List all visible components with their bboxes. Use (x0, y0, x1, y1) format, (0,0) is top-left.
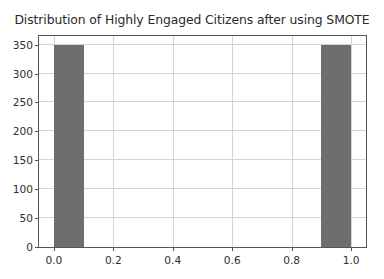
x-tick-label: 0.2 (105, 254, 122, 266)
chart-figure: Distribution of Highly Engaged Citizens … (0, 0, 384, 279)
y-tick-label: 200 (13, 125, 33, 137)
x-tick-label: 0.4 (164, 254, 181, 266)
gridline-horizontal (39, 159, 366, 160)
gridline-vertical (173, 36, 174, 247)
gridline-horizontal (39, 44, 366, 45)
chart-title: Distribution of Highly Engaged Citizens … (0, 12, 384, 27)
y-tick-mark (35, 247, 39, 248)
gridline-horizontal (39, 130, 366, 131)
x-tick-mark (54, 247, 55, 251)
y-tick-label: 0 (26, 241, 33, 253)
x-tick-label: 1.0 (343, 254, 360, 266)
y-tick-label: 150 (13, 154, 33, 166)
plot-area: 050100150200250300350 0.00.20.40.60.81.0 (38, 35, 367, 248)
y-tick-label: 100 (13, 183, 33, 195)
x-tick-label: 0.0 (45, 254, 62, 266)
y-tick-label: 250 (13, 96, 33, 108)
x-tick-mark (351, 247, 352, 251)
gridline-horizontal (39, 188, 366, 189)
y-tick-mark (35, 74, 39, 75)
y-tick-label: 350 (13, 39, 33, 51)
y-tick-mark (35, 218, 39, 219)
y-tick-label: 300 (13, 68, 33, 80)
bar (321, 45, 351, 247)
x-tick-mark (232, 247, 233, 251)
y-tick-mark (35, 131, 39, 132)
x-tick-mark (173, 247, 174, 251)
x-tick-label: 0.6 (224, 254, 241, 266)
gridline-vertical (292, 36, 293, 247)
gridline-horizontal (39, 217, 366, 218)
x-tick-label: 0.8 (283, 254, 300, 266)
gridline-vertical (351, 36, 352, 247)
y-tick-mark (35, 160, 39, 161)
y-tick-mark (35, 45, 39, 46)
gridline-vertical (113, 36, 114, 247)
x-tick-mark (292, 247, 293, 251)
y-tick-label: 50 (20, 212, 33, 224)
gridline-vertical (232, 36, 233, 247)
y-tick-mark (35, 189, 39, 190)
y-tick-mark (35, 102, 39, 103)
x-tick-mark (113, 247, 114, 251)
bar (54, 45, 84, 247)
gridline-horizontal (39, 73, 366, 74)
gridline-horizontal (39, 101, 366, 102)
